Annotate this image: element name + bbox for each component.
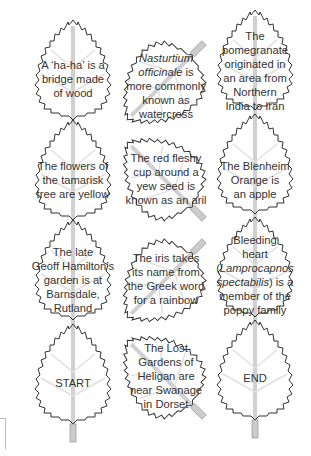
line: The late <box>32 245 114 259</box>
line: Nasturtium <box>126 51 206 65</box>
line: END <box>243 371 267 385</box>
line: more commonly <box>126 79 206 93</box>
line: Heligan are <box>130 369 202 383</box>
leaf-text-r1c1: A ‘ha-ha’ is abridge madeof wood <box>23 56 123 102</box>
line: in Dorset <box>130 397 202 411</box>
line: originated in <box>222 57 288 71</box>
line: The <box>222 29 288 43</box>
leaf-text-r2c1: The flowers ofthe tamarisktree are yello… <box>23 158 123 202</box>
end-label: END <box>205 370 305 386</box>
line: bridge made <box>41 72 105 86</box>
line: poppy family <box>216 303 294 317</box>
partial-frame <box>0 418 6 449</box>
line: yew seed is <box>126 179 207 193</box>
leaf-text-r4c2: The LostGardens ofHeligan arenear Swanag… <box>114 340 218 412</box>
line: Barnsdale, <box>32 287 114 301</box>
start-label: START <box>23 375 123 391</box>
line: START <box>55 376 91 390</box>
line: Geoff Hamilton’s <box>32 259 114 273</box>
line: spectabilis) is a <box>216 275 294 289</box>
line: near Swanage <box>130 383 202 397</box>
line: Bleeding <box>216 233 294 247</box>
line: Rutland <box>32 301 114 315</box>
line: officinale is <box>126 65 206 79</box>
line: (Lamprocapnos <box>216 261 294 275</box>
line: The flowers of <box>37 159 110 173</box>
line: pomegranate <box>222 43 288 57</box>
line: the Greek word <box>128 279 204 293</box>
line: Northern <box>222 85 288 99</box>
line: The red fleshy <box>126 151 207 165</box>
line: known as <box>126 93 206 107</box>
leaf-text-r3c1: The lateGeoff Hamilton’sgarden is atBarn… <box>20 244 126 316</box>
line: cup around a <box>126 165 207 179</box>
line: member of the <box>216 289 294 303</box>
line: watercress <box>126 107 206 121</box>
line: The Lost <box>130 341 202 355</box>
line: garden is at <box>32 273 114 287</box>
line: an apple <box>220 187 289 201</box>
leaf-text-r2c2: The red fleshycup around ayew seed iskno… <box>114 150 218 208</box>
line: for a rainbow <box>128 293 204 307</box>
line: India to Iran <box>222 99 288 113</box>
line: heart <box>216 247 294 261</box>
leaf-text-r3c3: Bleedingheart(Lamprocapnosspectabilis) i… <box>203 232 307 318</box>
line: known as an aril <box>126 193 207 207</box>
line: The iris takes <box>128 251 204 265</box>
leaf-text-r2c3: The BlenheimOrange isan apple <box>205 158 305 202</box>
line: Orange is <box>220 173 289 187</box>
line: tree are yellow <box>37 187 110 201</box>
leaf-text-r1c2: Nasturtiumofficinale ismore commonlyknow… <box>115 50 217 122</box>
line: The Blenheim <box>220 159 289 173</box>
line: Gardens of <box>130 355 202 369</box>
line: of wood <box>41 86 105 100</box>
leaf-text-r1c3: Thepomegranateoriginated inan area fromN… <box>205 28 305 114</box>
line: the tamarisk <box>37 173 110 187</box>
line: an area from <box>222 71 288 85</box>
line: its name from <box>128 265 204 279</box>
line: A ‘ha-ha’ is a <box>41 58 105 72</box>
